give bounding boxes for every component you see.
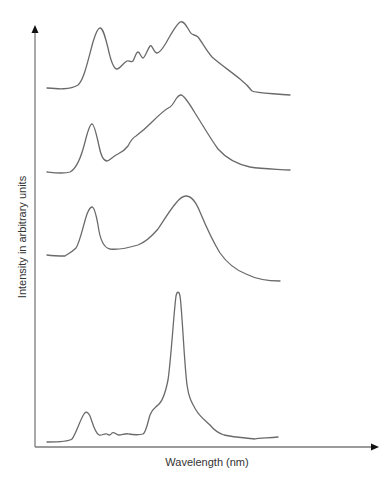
spectrum-1-line bbox=[47, 22, 290, 95]
spectrum-4-line bbox=[47, 292, 278, 442]
y-axis-arrow-icon bbox=[32, 25, 39, 33]
x-axis-arrow-icon bbox=[371, 444, 379, 451]
spectrum-3-line bbox=[47, 196, 280, 281]
spectra-chart bbox=[0, 0, 390, 482]
y-axis-label: Intensity in arbitrary units bbox=[16, 176, 28, 298]
x-axis-label: Wavelength (nm) bbox=[0, 456, 390, 468]
spectrum-2-line bbox=[47, 95, 290, 173]
